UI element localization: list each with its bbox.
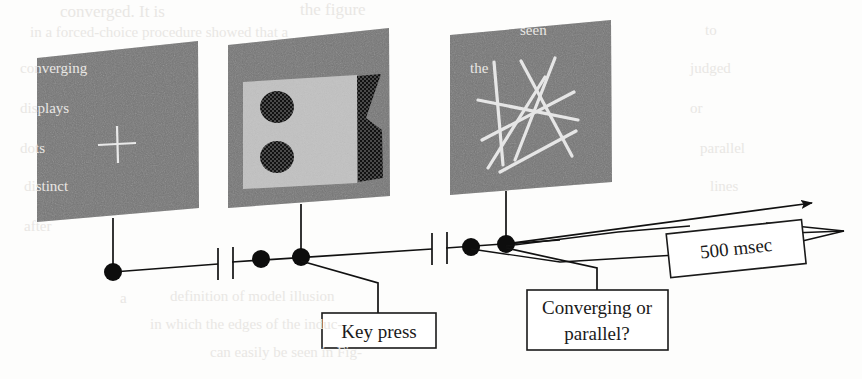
event-dot-4 bbox=[462, 238, 480, 256]
fixation-panel bbox=[30, 35, 210, 230]
prime-disc-lower bbox=[260, 141, 294, 173]
question-label-line-1: Converging or bbox=[542, 297, 653, 318]
prime-surface bbox=[240, 72, 362, 192]
timeline-axis-segment-1 bbox=[113, 264, 218, 272]
key-press-leader bbox=[301, 261, 378, 313]
event-dot-2 bbox=[252, 250, 270, 268]
timeline-break-mark-1 bbox=[218, 247, 233, 280]
question-leader bbox=[506, 248, 597, 290]
trial-sequence-figure: converged. It isthe figurein a forced-ch… bbox=[0, 0, 862, 379]
key-press-callout[interactable]: Key press bbox=[301, 261, 436, 348]
question-label-line-2: parallel? bbox=[564, 323, 629, 344]
key-press-label: Key press bbox=[341, 321, 416, 342]
test-panel bbox=[444, 14, 624, 206]
duration-bracket-upper bbox=[506, 226, 690, 246]
prime-disc-upper bbox=[260, 91, 294, 123]
duration-callout[interactable]: 500 msec bbox=[666, 220, 806, 278]
event-dot-5 bbox=[497, 235, 515, 253]
question-callout[interactable]: Converging or parallel? bbox=[506, 248, 668, 350]
prime-panel bbox=[222, 22, 402, 217]
event-dot-1 bbox=[104, 263, 122, 281]
figure-canvas: Key press Converging or parallel? 500 ms… bbox=[0, 0, 862, 379]
timeline-break-mark-2 bbox=[432, 232, 447, 265]
